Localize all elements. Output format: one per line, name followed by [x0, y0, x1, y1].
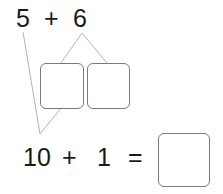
top-operator: + [44, 6, 59, 31]
decomposition-box-2[interactable] [87, 63, 130, 109]
top-operand-a: 5 [16, 6, 30, 31]
top-operand-b: 6 [73, 6, 87, 31]
bottom-operand-a: 10 [23, 145, 51, 170]
line-5-to-10 [23, 32, 40, 134]
answer-box[interactable] [158, 133, 210, 187]
equals-sign: = [128, 145, 143, 170]
line-6-to-box1 [61, 33, 82, 63]
bottom-operator: + [62, 145, 77, 170]
decomposition-box-1[interactable] [40, 63, 84, 109]
bottom-operand-b: 1 [97, 145, 111, 170]
line-box1-to-10 [40, 108, 61, 134]
line-6-to-box2 [82, 33, 107, 63]
